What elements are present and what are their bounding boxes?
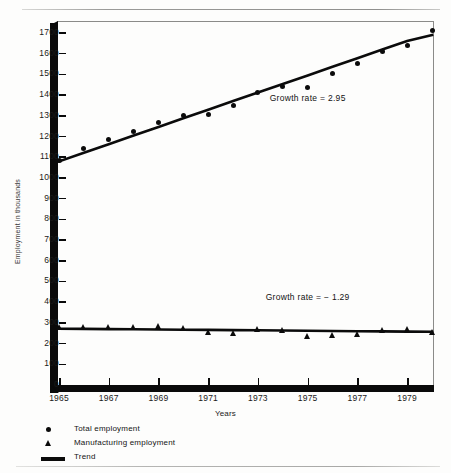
y-axis-tick: [59, 74, 66, 76]
y-axis-title: Employment in thousands: [14, 157, 21, 287]
data-point-manufacturing-employment: [155, 323, 161, 329]
y-axis-tick: [59, 301, 66, 303]
x-axis-tick-label: 1971: [188, 393, 228, 403]
y-axis-tick: [59, 32, 66, 34]
circle-marker-icon: [46, 427, 51, 432]
y-axis-tick-label: 100: [19, 358, 59, 368]
x-axis-title: Years: [0, 409, 451, 418]
data-point-total-employment: [330, 71, 335, 76]
x-axis-tick: [109, 378, 111, 385]
y-axis-tick: [59, 219, 66, 221]
x-axis-tick: [357, 378, 359, 385]
data-point-total-employment: [156, 120, 161, 125]
y-axis-tick-label: 1300: [19, 110, 59, 120]
data-point-manufacturing-employment: [279, 327, 285, 333]
x-axis-tick: [158, 378, 160, 385]
data-point-manufacturing-employment: [180, 325, 186, 331]
y-axis-tick-label: 1600: [19, 48, 59, 58]
x-axis: [50, 385, 434, 392]
y-axis-tick: [59, 198, 66, 200]
y-axis-tick-label: 200: [19, 338, 59, 348]
y-axis-tick-label: 500: [19, 275, 59, 285]
legend-label: Total employment: [74, 424, 140, 433]
x-axis-tick: [308, 378, 310, 385]
data-point-manufacturing-employment: [205, 329, 211, 335]
y-axis-tick: [59, 343, 66, 345]
x-axis-tick-label: 1975: [288, 393, 328, 403]
y-axis-tick: [59, 115, 66, 117]
x-axis-tick-label: 1969: [138, 393, 178, 403]
y-axis-tick-label: 1500: [19, 68, 59, 78]
figure-page: 0100200300400500600700800900100011001200…: [0, 0, 451, 473]
triangle-marker-icon: [45, 440, 51, 446]
annotation-growth-rate-total: Growth rate = 2.95: [270, 93, 346, 103]
y-axis-tick: [59, 94, 66, 96]
data-point-total-employment: [380, 49, 385, 54]
data-point-manufacturing-employment: [404, 326, 410, 332]
x-axis-tick: [407, 378, 409, 385]
annotation-growth-rate-manufacturing: Growth rate = − 1.29: [266, 292, 350, 302]
x-axis-tick-label: 1973: [238, 393, 278, 403]
y-axis-tick-label: 1400: [19, 89, 59, 99]
data-point-total-employment: [355, 61, 360, 66]
data-point-manufacturing-employment: [354, 331, 360, 337]
data-point-manufacturing-employment: [105, 324, 111, 330]
y-axis-tick: [59, 136, 66, 138]
y-axis-tick: [59, 239, 66, 241]
y-axis-tick-label: 600: [19, 255, 59, 265]
page-rule-top: [22, 9, 440, 10]
data-point-manufacturing-employment: [80, 324, 86, 330]
y-axis-tick: [59, 53, 66, 55]
legend-label: Trend: [74, 452, 96, 461]
y-axis-tick-label: 1200: [19, 131, 59, 141]
x-axis-tick-label: 1965: [39, 393, 79, 403]
y-axis-tick-label: 300: [19, 317, 59, 327]
y-axis-tick: [59, 281, 66, 283]
plot-frame-top-border: [57, 21, 434, 22]
y-axis-tick-label: 900: [19, 193, 59, 203]
data-point-total-employment: [131, 129, 136, 134]
legend-label: Manufacturing employment: [74, 438, 175, 447]
x-axis-tick-label: 1979: [387, 393, 427, 403]
x-axis-tick: [59, 378, 61, 385]
y-axis-tick-label: 700: [19, 234, 59, 244]
page-rule-bottom: [16, 466, 440, 467]
plot-frame: [57, 21, 434, 385]
y-axis-tick-label: 1700: [19, 27, 59, 37]
data-point-manufacturing-employment: [254, 326, 260, 332]
data-point-total-employment: [206, 112, 211, 117]
line-marker-icon: [41, 457, 65, 461]
x-axis-tick: [258, 378, 260, 385]
data-point-manufacturing-employment: [379, 327, 385, 333]
y-axis-tick-label: 0: [19, 379, 59, 389]
y-axis-tick-label: 400: [19, 296, 59, 306]
y-axis-tick: [59, 364, 66, 366]
data-point-total-employment: [231, 103, 236, 108]
data-point-manufacturing-employment: [304, 333, 310, 339]
data-point-manufacturing-employment: [329, 332, 335, 338]
y-axis-tick-label: 1000: [19, 172, 59, 182]
data-point-manufacturing-employment: [429, 329, 435, 335]
data-point-manufacturing-employment: [56, 324, 62, 330]
y-axis-tick: [59, 177, 66, 179]
x-axis-tick-label: 1967: [89, 393, 129, 403]
data-point-manufacturing-employment: [230, 330, 236, 336]
data-point-total-employment: [405, 43, 410, 48]
data-point-total-employment: [57, 158, 62, 163]
x-axis-tick-label: 1977: [337, 393, 377, 403]
y-axis-tick: [59, 260, 66, 262]
y-axis-tick-label: 800: [19, 213, 59, 223]
y-axis-tick-label: 1100: [19, 151, 59, 161]
y-axis-tick: [59, 322, 66, 324]
x-axis-tick: [208, 378, 210, 385]
data-point-manufacturing-employment: [130, 324, 136, 330]
